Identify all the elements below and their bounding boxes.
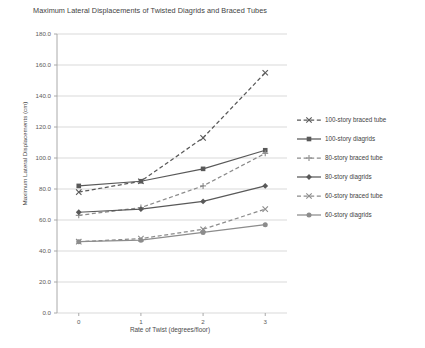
legend-label: 80-story diagrids <box>325 173 372 180</box>
y-axis-title: Maximum Lateral Displacements (cm) <box>21 84 28 224</box>
legend-marker-icon <box>296 171 322 183</box>
x-tick-label: 2 <box>193 318 213 325</box>
legend-label: 100-story diagrids <box>325 135 375 142</box>
x-tick-label: 0 <box>69 318 89 325</box>
legend-item: 80-story braced tube <box>296 148 424 167</box>
chart-container: Maximum Lateral Displacements of Twisted… <box>0 0 425 348</box>
legend-marker-icon <box>296 114 322 126</box>
chart-legend: 100-story braced tube100-story diagrids8… <box>296 110 424 224</box>
series-0 <box>76 70 268 195</box>
series-1 <box>76 148 267 188</box>
x-axis-title: Rate of Twist (degrees/floor) <box>55 326 285 333</box>
legend-item: 100-story braced tube <box>296 110 424 129</box>
x-tick-label: 3 <box>255 318 275 325</box>
y-tick-label: 20.0 <box>17 278 51 285</box>
series-4 <box>76 206 268 244</box>
legend-item: 80-story diagrids <box>296 167 424 186</box>
legend-label: 60-story braced tube <box>325 192 383 199</box>
legend-label: 60-story diagrids <box>325 211 372 218</box>
y-tick-label: 0.0 <box>17 309 51 316</box>
series-3 <box>76 183 268 215</box>
series-5 <box>76 222 267 244</box>
axis-lines <box>54 34 265 316</box>
legend-item: 60-story braced tube <box>296 186 424 205</box>
legend-marker-icon <box>296 152 322 164</box>
legend-marker-icon <box>296 133 322 145</box>
legend-label: 80-story braced tube <box>325 154 383 161</box>
y-tick-label: 160.0 <box>17 61 51 68</box>
y-tick-label: 180.0 <box>17 30 51 37</box>
legend-label: 100-story braced tube <box>325 116 386 123</box>
y-tick-label: 40.0 <box>17 247 51 254</box>
x-tick-label: 1 <box>131 318 151 325</box>
legend-marker-icon <box>296 190 322 202</box>
gridlines <box>57 34 287 313</box>
legend-marker-icon <box>296 209 322 221</box>
legend-item: 100-story diagrids <box>296 129 424 148</box>
legend-item: 60-story diagrids <box>296 205 424 224</box>
